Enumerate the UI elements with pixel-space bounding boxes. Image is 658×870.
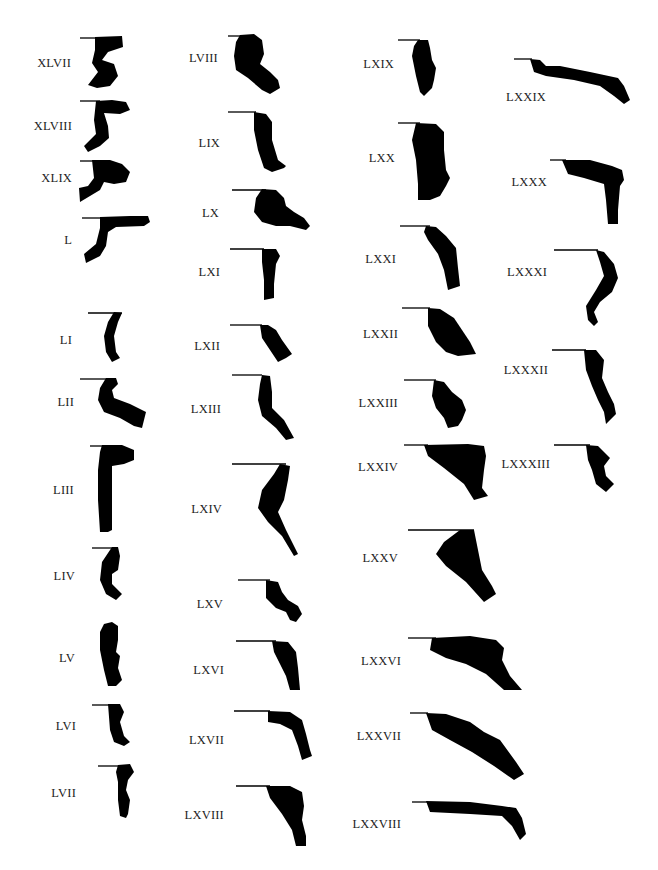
label-LXXXIII: LXXXIII xyxy=(501,457,550,472)
label-XLVII: XLVII xyxy=(37,56,71,71)
profile-LXXV xyxy=(408,530,496,602)
label-LXXIV: LXXIV xyxy=(358,460,398,475)
label-LXXII: LXXII xyxy=(363,327,398,342)
profile-LXXIV xyxy=(404,444,488,500)
label-LXVI: LXVI xyxy=(193,663,224,678)
label-LXXIII: LXXIII xyxy=(359,396,398,411)
label-LXVIII: LXVIII xyxy=(185,808,224,823)
rim-profile-drawings xyxy=(0,0,658,870)
profile-LX xyxy=(232,189,310,230)
profile-LVIII xyxy=(228,34,280,94)
profile-LXXVIII xyxy=(412,801,526,840)
profile-LXXVII xyxy=(410,713,524,780)
label-LXXX: LXXX xyxy=(511,175,547,190)
label-LIII: LIII xyxy=(53,483,74,498)
label-XLVIII: XLVIII xyxy=(34,119,72,134)
label-LIV: LIV xyxy=(54,569,75,584)
profile-LII xyxy=(80,378,146,428)
label-LV: LV xyxy=(59,651,75,666)
label-LXXVII: LXXVII xyxy=(357,729,401,744)
label-XLIX: XLIX xyxy=(41,171,72,186)
label-LVII: LVII xyxy=(51,786,76,801)
label-LXX: LXX xyxy=(369,151,395,166)
profile-LIII xyxy=(90,445,134,532)
profile-LIX xyxy=(228,112,286,172)
label-LXVII: LXVII xyxy=(189,733,224,748)
profile-LXXXII xyxy=(552,350,616,424)
profile-LXIX xyxy=(398,40,436,96)
profile-LXII xyxy=(230,325,292,362)
profile-LIV xyxy=(92,547,122,600)
profile-LXV xyxy=(238,580,302,622)
profile-XLIX xyxy=(79,160,130,202)
label-LVI: LVI xyxy=(56,719,76,734)
profiles-plate: XLVII XLVIII XLIX L LI LII LIII LIV LV L… xyxy=(0,0,658,870)
profile-LXX xyxy=(398,123,450,200)
label-LXXXII: LXXXII xyxy=(504,363,548,378)
label-LVIII: LVIII xyxy=(189,51,218,66)
label-LXIV: LXIV xyxy=(191,502,222,517)
label-LXXVI: LXXVI xyxy=(361,654,401,669)
label-LIX: LIX xyxy=(199,136,220,151)
profile-LXI xyxy=(230,249,280,300)
profile-LV xyxy=(100,622,122,686)
label-LII: LII xyxy=(57,395,74,410)
label-LXXVIII: LXXVIII xyxy=(352,817,401,832)
label-LXXV: LXXV xyxy=(362,551,398,566)
profile-LXXXI xyxy=(554,250,618,326)
profile-LXVI xyxy=(236,641,300,690)
profile-LXXVI xyxy=(408,636,522,690)
label-LXXI: LXXI xyxy=(365,252,396,267)
label-LXIII: LXIII xyxy=(191,402,221,417)
label-LXIX: LXIX xyxy=(363,57,394,72)
label-LXV: LXV xyxy=(197,597,223,612)
label-LXXXI: LXXXI xyxy=(507,265,547,280)
label-LXI: LXI xyxy=(199,265,220,280)
profile-LXVII xyxy=(234,711,312,760)
label-LXXIX: LXXIX xyxy=(506,90,546,105)
profile-LXXIII xyxy=(404,380,466,428)
profile-LXIV xyxy=(232,464,298,556)
profile-L xyxy=(82,216,150,263)
profile-LI xyxy=(88,312,122,362)
profile-LVI xyxy=(92,704,130,746)
label-L: L xyxy=(64,233,72,248)
label-LX: LX xyxy=(202,206,219,221)
profile-LXXII xyxy=(402,308,476,356)
profile-LXVIII xyxy=(236,786,306,846)
profile-LXXI xyxy=(400,226,460,290)
profile-XLVII xyxy=(80,36,123,88)
profile-LXIII xyxy=(232,375,294,440)
label-LXII: LXII xyxy=(194,339,220,354)
profile-XLVIII xyxy=(80,100,130,152)
label-LI: LI xyxy=(60,333,72,348)
profile-LXXX xyxy=(550,160,624,224)
profile-LXXXIII xyxy=(554,445,614,492)
profile-LVII xyxy=(98,764,134,818)
